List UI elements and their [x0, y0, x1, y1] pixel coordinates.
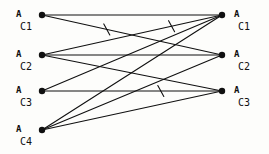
node-label-a: A: [16, 10, 32, 19]
node-label-group-l1: AC1: [16, 10, 32, 32]
graph-node-r3[interactable]: [219, 88, 225, 94]
node-label-a: A: [16, 50, 32, 59]
node-label-group-l2: AC2: [16, 50, 32, 72]
graph-node-r2[interactable]: [219, 52, 225, 58]
node-label-a: A: [234, 50, 250, 59]
node-label-c: C3: [20, 98, 32, 108]
bipartite-graph-svg: [0, 0, 269, 154]
node-label-group-l4: AC4: [16, 125, 32, 147]
node-label-a: A: [16, 86, 32, 95]
graph-edge: [42, 15, 222, 91]
edge-tick-layer: [104, 21, 175, 97]
graph-edge: [42, 55, 222, 130]
node-label-group-r2: AC2: [234, 50, 250, 72]
edge-layer: [42, 15, 222, 130]
node-label-c: C1: [20, 22, 32, 32]
graph-node-r1[interactable]: [219, 12, 225, 18]
node-label-c: C3: [238, 98, 250, 108]
graph-node-l4[interactable]: [39, 127, 45, 133]
graph-node-l1[interactable]: [39, 12, 45, 18]
node-label-group-r3: AC3: [234, 86, 250, 108]
graph-node-l2[interactable]: [39, 52, 45, 58]
node-label-a: A: [234, 10, 250, 19]
node-label-c: C1: [238, 22, 250, 32]
node-label-a: A: [16, 125, 32, 134]
graph-edge: [42, 15, 222, 130]
node-label-c: C2: [238, 62, 250, 72]
node-label-group-l3: AC3: [16, 86, 32, 108]
node-label-c: C4: [20, 137, 32, 147]
graph-node-l3[interactable]: [39, 88, 45, 94]
node-label-c: C2: [20, 62, 32, 72]
node-label-group-r1: AC1: [234, 10, 250, 32]
diagram-canvas: AC1AC2AC3AC4AC1AC2AC3: [0, 0, 269, 154]
node-label-a: A: [234, 86, 250, 95]
graph-edge: [42, 91, 222, 130]
